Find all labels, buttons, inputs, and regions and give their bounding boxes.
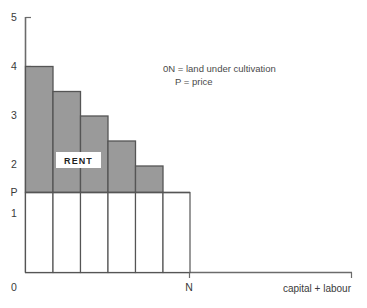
- price-bar-4: [108, 193, 136, 273]
- economic-rent-diagram: 5 4 3 2 P 1 0 N capi: [0, 0, 367, 308]
- y-tick-label-5: 5: [11, 11, 17, 23]
- price-bars-group: [26, 193, 191, 273]
- note-line-2: P = price: [175, 76, 213, 87]
- rent-bar-1: [26, 67, 54, 193]
- price-bar-6: [163, 193, 190, 273]
- rent-label: RENT: [64, 156, 93, 166]
- y-tick-label-1: 1: [11, 207, 17, 219]
- y-tick-label-p: P: [10, 186, 17, 198]
- rent-bar-4: [108, 141, 136, 193]
- y-tick-label-3: 3: [11, 109, 17, 121]
- price-bar-5: [136, 193, 164, 273]
- rent-label-group: RENT: [56, 152, 101, 168]
- rent-bar-2: [53, 92, 81, 193]
- rent-bar-5: [136, 166, 164, 193]
- note-line-1: 0N = land under cultivation: [163, 63, 276, 74]
- price-bar-1: [26, 193, 54, 273]
- price-bar-2: [53, 193, 81, 273]
- price-bar-3: [81, 193, 109, 273]
- y-tick-label-4: 4: [11, 60, 17, 72]
- x-tick-label-n: N: [185, 281, 193, 293]
- y-tick-label-2: 2: [11, 158, 17, 170]
- rent-bars-group: [26, 67, 164, 193]
- chart-figure: 5 4 3 2 P 1 0 N capi: [0, 0, 367, 308]
- origin-label: 0: [11, 281, 17, 293]
- legend-note: 0N = land under cultivation P = price: [163, 63, 276, 87]
- x-axis-title: capital + labour: [283, 283, 352, 294]
